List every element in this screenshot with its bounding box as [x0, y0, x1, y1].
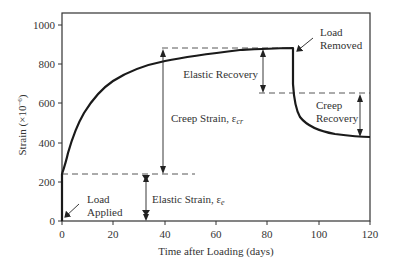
creep-recovery-label: Recovery: [316, 112, 359, 124]
y-tick-label: 600: [39, 97, 56, 109]
load-applied-label: Applied: [87, 206, 123, 218]
reference-lines: [62, 48, 370, 174]
creep-strain-label: Creep Strain, εcr: [171, 112, 244, 126]
creep-strain-chart: 0 200 400 600 800 1000 0 20 40 60 80 100…: [0, 0, 396, 269]
y-tick-label: 400: [39, 137, 56, 149]
x-axis-label: Time after Loading (days): [158, 245, 274, 258]
x-tick-label: 60: [211, 228, 223, 240]
x-tick-label: 120: [362, 228, 379, 240]
y-tick-label: 200: [39, 176, 56, 188]
x-tick-label: 80: [262, 228, 274, 240]
y-tick-label: 800: [39, 58, 56, 70]
elastic-strain-label: Elastic Strain, εe: [152, 193, 225, 207]
x-tick-label: 40: [160, 228, 172, 240]
x-tick-label: 20: [108, 228, 120, 240]
load-removed-label: Removed: [320, 39, 363, 51]
y-tick-label: 0: [50, 215, 56, 227]
creep-recovery-label: Creep: [316, 99, 343, 111]
y-tick-label: 1000: [33, 19, 56, 31]
x-tick-label: 100: [311, 228, 328, 240]
y-axis-label: Strain (×10−6): [16, 94, 29, 155]
x-axis: [62, 221, 370, 225]
load-applied-arrow: [65, 204, 79, 217]
load-applied-label: Load: [87, 193, 110, 205]
elastic-recovery-label: Elastic Recovery: [183, 68, 258, 80]
load-removed-arrow: [297, 38, 313, 51]
x-tick-label: 0: [59, 228, 65, 240]
load-removed-label: Load: [320, 26, 343, 38]
